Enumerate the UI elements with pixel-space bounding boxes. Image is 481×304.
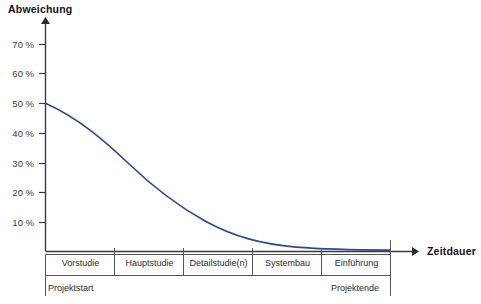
phase-label-detailstudien: Detailstudie(n) [184, 256, 253, 271]
y-tick-label-70: 70 % [0, 39, 34, 50]
y-tick-label-10: 10 % [0, 217, 34, 228]
milestone-label-projektende: Projektende [331, 283, 379, 293]
phase-label-einfuehrung: Einführung [322, 256, 391, 271]
y-tick-label-60: 60 % [0, 68, 34, 79]
y-axis-ticks [39, 45, 46, 223]
y-tick-label-30: 30 % [0, 158, 34, 169]
deviation-over-project-duration-chart: Abweichung Zeitdauer 70 % 60 % 50 % 40 %… [0, 0, 481, 304]
y-axis-title: Abweichung [8, 3, 72, 15]
x-axis-title: Zeitdauer [427, 245, 476, 257]
deviation-curve [46, 104, 390, 251]
y-tick-label-20: 20 % [0, 187, 34, 198]
phase-label-vorstudie: Vorstudie [46, 256, 115, 271]
phase-label-hauptstudie: Hauptstudie [115, 256, 184, 271]
milestone-label-projektstart: Projektstart [48, 283, 94, 293]
y-tick-label-40: 40 % [0, 128, 34, 139]
phase-label-systembau: Systembau [253, 256, 322, 271]
y-tick-label-50: 50 % [0, 98, 34, 109]
